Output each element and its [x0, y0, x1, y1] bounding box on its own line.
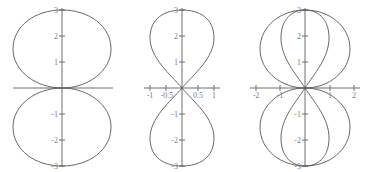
plot-panel-1: 3 2 1 -1 -2 -3 — [0, 0, 122, 172]
panel-1-canvas: 3 2 1 -1 -2 -3 — [0, 0, 122, 172]
panel-3-canvas: -2 -1 1 2 3 2 1 -1 -2 -3 — [242, 0, 367, 172]
panel-3-ylabel-neg2: -2 — [294, 136, 301, 145]
panel-2-ylabel-1: 1 — [174, 58, 178, 67]
polar-plot-figure: 3 2 1 -1 -2 -3 — [0, 0, 367, 172]
panel-3-ylabel-neg3: -3 — [294, 162, 301, 171]
panel-1-ylabel-neg1: -1 — [51, 110, 58, 119]
panel-1-ylabel-3: 3 — [54, 6, 58, 15]
panel-3-xlabel-2: 2 — [352, 91, 356, 100]
panel-3-ylabel-3: 3 — [297, 6, 301, 15]
panel-3-ylabel-2: 2 — [297, 32, 301, 41]
panel-3-ylabel-1: 1 — [297, 58, 301, 67]
panel-2-xlabel-neg1: -1 — [147, 91, 154, 100]
panel-2-xlabel-05: 0.5 — [193, 91, 203, 100]
panel-2-ylabel-2: 2 — [174, 32, 178, 41]
panel-2-ylabel-3: 3 — [174, 6, 178, 15]
panel-1-ylabel-1: 1 — [54, 58, 58, 67]
plot-panel-3: -2 -1 1 2 3 2 1 -1 -2 -3 — [242, 0, 367, 172]
plot-panel-2: -1 -0.5 0.5 1 3 2 1 -1 -2 -3 — [122, 0, 242, 172]
panel-2-ylabel-neg2: -2 — [171, 136, 178, 145]
panel-1-ylabel-2: 2 — [54, 32, 58, 41]
panel-3-ylabel-neg1: -1 — [294, 110, 301, 119]
panel-3-xlabel-neg1: -1 — [277, 91, 284, 100]
panel-1-ylabel-neg3: -3 — [51, 162, 58, 171]
panel-2-xlabel-neg05: -0.5 — [161, 91, 174, 100]
panel-3-xlabel-neg2: -2 — [253, 91, 260, 100]
panel-2-canvas: -1 -0.5 0.5 1 3 2 1 -1 -2 -3 — [122, 0, 242, 172]
panel-2-ylabel-neg3: -3 — [171, 162, 178, 171]
panel-1-ylabel-neg2: -2 — [51, 136, 58, 145]
panel-2-ylabel-neg1: -1 — [171, 110, 178, 119]
panel-2-xlabel-1: 1 — [212, 91, 216, 100]
panel-3-xlabel-1: 1 — [328, 91, 332, 100]
